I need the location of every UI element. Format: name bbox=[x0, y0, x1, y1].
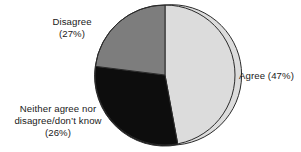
pie-label-neither-agree-nor-disagree: Neither agree nor disagree/don’t know (2… bbox=[2, 103, 114, 140]
pie-label-disagree-name: Disagree bbox=[34, 16, 110, 28]
pie-label-disagree: Disagree (27%) bbox=[34, 16, 110, 40]
pie-label-agree-name-percent: Agree (47%) bbox=[239, 70, 294, 82]
pie-label-neither-line1: Neither agree nor bbox=[2, 103, 114, 115]
pie-label-neither-percent: (26%) bbox=[2, 127, 114, 139]
pie-slice-agree bbox=[165, 5, 242, 145]
pie-label-disagree-percent: (27%) bbox=[34, 28, 110, 40]
pie-label-neither-line2: disagree/don’t know bbox=[2, 115, 114, 127]
pie-label-agree: Agree (47%) bbox=[239, 70, 294, 82]
pie-chart-figure: Disagree (27%) Agree (47%) Neither agree… bbox=[0, 0, 301, 152]
